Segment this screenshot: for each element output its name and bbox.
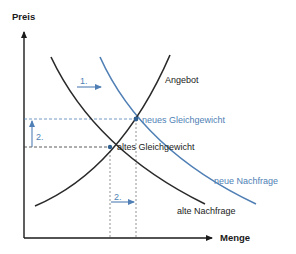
supply-demand-diagram xyxy=(0,0,296,254)
step2-price-label: 2. xyxy=(36,132,44,142)
new-demand-label: neue Nachfrage xyxy=(214,176,278,186)
step2-quantity-label: 2. xyxy=(114,192,122,202)
new-equilibrium-point xyxy=(134,117,139,122)
old-equilibrium-point xyxy=(108,145,112,149)
supply-label: Angebot xyxy=(165,75,199,85)
x-axis-label: Menge xyxy=(220,233,250,243)
step1-label: 1. xyxy=(80,76,88,86)
new-equilibrium-label: neues Gleichgewicht xyxy=(142,115,225,125)
old-demand-label: alte Nachfrage xyxy=(177,206,236,216)
old-equilibrium-label: altes Gleichgewicht xyxy=(117,142,195,152)
y-axis-label: Preis xyxy=(12,12,35,22)
